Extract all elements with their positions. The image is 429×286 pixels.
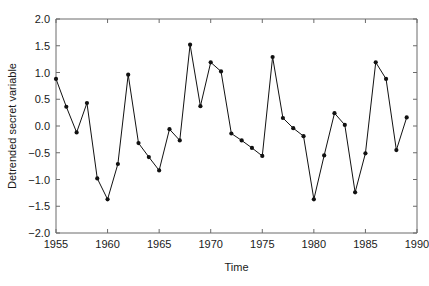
data-point — [353, 190, 357, 194]
axes — [56, 19, 417, 233]
data-point — [178, 138, 182, 142]
data-point — [301, 134, 305, 138]
data-point — [147, 155, 151, 159]
data-point — [250, 146, 254, 150]
x-tick-label: 1960 — [95, 238, 119, 250]
data-point — [116, 162, 120, 166]
x-tick-label: 1970 — [198, 238, 222, 250]
y-tick-label: 2.0 — [35, 13, 50, 25]
data-point — [229, 131, 233, 135]
data-point — [332, 111, 336, 115]
x-tick-label: 1955 — [44, 238, 68, 250]
data-point — [188, 43, 192, 47]
x-tick-labels: 19551960196519701975198019851990 — [44, 238, 429, 250]
data-point — [394, 148, 398, 152]
chart-figure: 19551960196519701975198019851990 −2.0−1.… — [0, 0, 429, 286]
y-tick-label: −1.5 — [28, 200, 50, 212]
data-markers — [54, 43, 409, 202]
x-tick-label: 1990 — [405, 238, 429, 250]
data-point — [209, 60, 213, 64]
data-point — [281, 116, 285, 120]
x-tick-label: 1965 — [147, 238, 171, 250]
y-axis-title: Detrended secret variable — [6, 63, 18, 189]
data-point — [54, 77, 58, 81]
y-tick-label: −1.0 — [28, 174, 50, 186]
data-point — [95, 176, 99, 180]
data-point — [322, 153, 326, 157]
y-tick-labels: −2.0−1.5−1.0−0.50.00.51.01.52.0 — [28, 13, 50, 239]
data-series-line — [56, 45, 407, 200]
data-point — [126, 73, 130, 77]
data-point — [157, 168, 161, 172]
data-point — [85, 101, 89, 105]
data-point — [240, 138, 244, 142]
data-point — [384, 77, 388, 81]
data-point — [271, 55, 275, 59]
data-point — [343, 123, 347, 127]
data-point — [105, 197, 109, 201]
data-point — [405, 115, 409, 119]
data-point — [291, 126, 295, 130]
data-point — [136, 141, 140, 145]
x-tick-label: 1985 — [353, 238, 377, 250]
line-chart: 19551960196519701975198019851990 −2.0−1.… — [0, 0, 429, 286]
y-tick-label: 1.5 — [35, 40, 50, 52]
data-point — [64, 105, 68, 109]
data-point — [374, 60, 378, 64]
x-tick-label: 1980 — [302, 238, 326, 250]
y-tick-label: 1.0 — [35, 67, 50, 79]
x-tick-label: 1975 — [250, 238, 274, 250]
data-point — [75, 130, 79, 134]
data-point — [363, 151, 367, 155]
data-point — [219, 69, 223, 73]
data-point — [167, 127, 171, 131]
y-tick-label: −2.0 — [28, 227, 50, 239]
y-tick-label: 0.0 — [35, 120, 50, 132]
data-point — [198, 104, 202, 108]
data-point — [312, 197, 316, 201]
y-tick-label: 0.5 — [35, 93, 50, 105]
y-tick-label: −0.5 — [28, 147, 50, 159]
tick-marks — [56, 19, 417, 233]
x-axis-title: Time — [224, 261, 248, 273]
data-point — [260, 154, 264, 158]
